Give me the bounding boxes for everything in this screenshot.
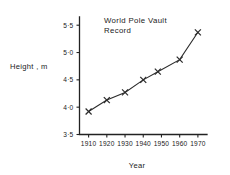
data-point-marker (195, 29, 201, 35)
x-tick-label: 1920 (99, 140, 115, 147)
chart-title-line-2: Record (104, 26, 131, 35)
x-axis-title: Year (129, 161, 146, 170)
x-tick-label: 1940 (136, 140, 152, 147)
data-point-marker (104, 97, 110, 103)
x-tick-label: 1970 (190, 140, 206, 147)
axis-spines (80, 17, 208, 135)
line-chart: 3·54·04·55·05·5 191019201930194019501960… (0, 0, 230, 175)
y-tick-label: 5·5 (63, 22, 73, 29)
y-tick-label: 5·0 (63, 49, 73, 56)
data-point-marker (122, 89, 128, 95)
chart-title-line-1: World Pole Vault (104, 16, 167, 25)
data-point-markers (86, 29, 201, 114)
x-tick-label: 1910 (81, 140, 97, 147)
data-point-marker (177, 57, 183, 63)
data-point-marker (155, 69, 161, 75)
x-axis-tick-labels: 1910192019301940195019601970 (81, 140, 206, 147)
y-axis-title: Height , m (10, 62, 48, 71)
y-tick-label: 4·0 (63, 104, 73, 111)
data-series-line (89, 32, 198, 111)
y-axis-tick-labels: 3·54·04·55·05·5 (63, 22, 73, 138)
data-point-marker (140, 77, 146, 83)
chart-figure: 3·54·04·55·05·5 191019201930194019501960… (0, 0, 230, 175)
y-tick-label: 3·5 (63, 131, 73, 138)
data-point-marker (86, 109, 92, 115)
x-tick-label: 1950 (154, 140, 170, 147)
x-tick-label: 1960 (172, 140, 188, 147)
y-tick-label: 4·5 (63, 76, 73, 83)
x-tick-label: 1930 (117, 140, 133, 147)
